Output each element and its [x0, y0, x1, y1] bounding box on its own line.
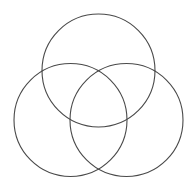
venn-diagram-canvas — [0, 0, 196, 191]
venn-diagram-svg — [0, 0, 196, 191]
